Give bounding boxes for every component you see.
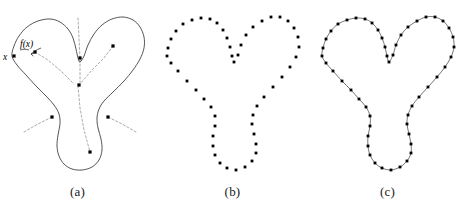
sample-point [175, 30, 178, 33]
sample-point [408, 133, 411, 136]
sample-point [251, 160, 254, 163]
sample-point [287, 20, 290, 23]
sample-point [214, 125, 217, 128]
upper-left-branch [35, 52, 74, 84]
sample-point [452, 36, 455, 39]
sample-point [177, 70, 180, 73]
sample-point [325, 38, 328, 41]
sample-point [167, 47, 170, 50]
sample-point [400, 34, 403, 37]
sample-point [407, 26, 410, 29]
sample-point [214, 154, 217, 157]
sample-point [330, 30, 333, 33]
sample-point [367, 145, 370, 148]
sample-point [442, 20, 445, 23]
panel-a-caption: (a) [0, 185, 155, 199]
sample-point [407, 114, 410, 117]
sample-point [434, 16, 437, 19]
sample-point [252, 26, 255, 29]
x-label: x [2, 52, 8, 62]
fx-annotation [20, 48, 41, 56]
sample-point [244, 166, 247, 169]
sample-point [384, 46, 387, 49]
sample-point [170, 62, 173, 65]
sample-point [272, 86, 275, 89]
fx-label: f(x) [20, 39, 33, 50]
figure-container: f(x) x (a) (b) (c) [0, 0, 470, 201]
sample-point [216, 22, 219, 25]
panel-b-caption: (b) [155, 185, 310, 199]
left-lower-branch [24, 117, 52, 132]
sample-point [253, 133, 256, 136]
sample-point [453, 46, 456, 49]
panel-a-drawing: f(x) x [0, 0, 155, 178]
sample-point [281, 76, 284, 79]
panel-b: (b) [155, 0, 310, 201]
sample-point [261, 20, 264, 23]
right-lower-branch [108, 117, 136, 132]
panel-c: (c) [310, 0, 465, 201]
sample-point [337, 23, 340, 26]
sample-point [191, 19, 194, 22]
point-junction [77, 83, 80, 86]
sample-point [411, 105, 414, 108]
sample-point [332, 70, 335, 73]
sample-point [418, 96, 421, 99]
sample-point [209, 18, 212, 21]
sample-point [386, 55, 389, 58]
fx-underline-tick [20, 49, 29, 50]
sample-point [166, 55, 169, 58]
sample-point [364, 18, 367, 21]
sample-point [392, 54, 395, 57]
sample-point [245, 34, 248, 37]
sample-point [240, 44, 243, 47]
sample-point [233, 61, 236, 64]
sample-point [410, 143, 413, 146]
sample-point [450, 56, 453, 59]
sample-point [200, 17, 203, 20]
sample-point [416, 20, 419, 23]
sample-point [395, 44, 398, 47]
reconstructed-curve [322, 16, 454, 170]
sample-point [226, 167, 229, 170]
sample-point [410, 152, 413, 155]
sample-point [321, 55, 324, 58]
sample-point [237, 54, 240, 57]
sample-point [390, 169, 393, 172]
point-left-lower [50, 115, 53, 118]
sample-point [325, 62, 328, 65]
point-right-lower [106, 115, 109, 118]
upper-right-branch [80, 46, 113, 84]
sample-point [355, 17, 358, 20]
point-x-on-curve [12, 54, 15, 57]
sample-point [448, 27, 451, 30]
sample-point [235, 169, 238, 172]
sample-point [425, 16, 428, 19]
center-vertical-branch [78, 18, 80, 82]
sample-point [222, 29, 225, 32]
panel-a: f(x) x (a) [0, 0, 155, 201]
sample-point [252, 114, 255, 117]
sample-point [212, 135, 215, 138]
sample-point [256, 105, 259, 108]
sample-point [289, 66, 292, 69]
sample-point [270, 16, 273, 19]
sample-point [374, 162, 377, 165]
interior-sample-points [12, 44, 114, 153]
sample-point [444, 66, 447, 69]
sample-point [214, 115, 217, 118]
sample-point [210, 106, 213, 109]
sample-point [369, 125, 372, 128]
fx-arrow-head [31, 53, 35, 56]
sample-point [427, 86, 430, 89]
sample-point [341, 80, 344, 83]
sample-point [231, 55, 234, 58]
sample-point [229, 46, 232, 49]
sample-point [251, 123, 254, 126]
sample-point [279, 16, 282, 19]
sample-point [226, 37, 229, 40]
point-upper-right [111, 44, 114, 47]
sample-point [406, 160, 409, 163]
sample-point [322, 47, 325, 50]
sample-point [182, 23, 185, 26]
